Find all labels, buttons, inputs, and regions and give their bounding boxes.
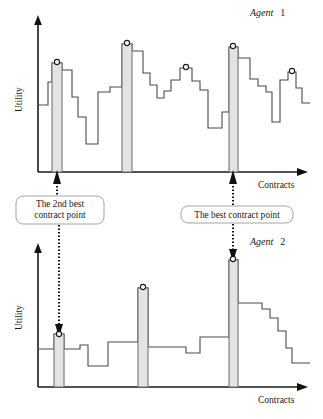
highlight-bar-agent2-best xyxy=(229,260,238,387)
agent-1-title-word: Agent xyxy=(249,7,274,18)
callout-second-best-line2: contract point xyxy=(34,210,86,220)
agent-1-title: Agent 1 xyxy=(249,2,285,19)
peak-marker-agent2-1 xyxy=(56,331,61,336)
peak-marker-agent1-5 xyxy=(289,68,294,73)
agent-2-title-word: Agent xyxy=(249,236,274,247)
highlight-bar-agent1-second-best xyxy=(52,63,62,172)
agent-2-title-number: 2 xyxy=(280,236,285,247)
callout-second-best-line1: The 2nd best xyxy=(36,199,84,209)
peak-marker-agent1-2 xyxy=(124,40,129,45)
highlight-bar-agent2-middle-peak xyxy=(138,288,148,387)
panel-agent-1: Utility Contracts Agent 1 xyxy=(14,2,310,190)
peak-marker-agent1-3 xyxy=(183,64,188,69)
peak-marker-agent2-2 xyxy=(140,284,145,289)
y-axis-label-agent-1: Utility xyxy=(14,87,24,112)
y-axis-agent-2 xyxy=(34,243,42,387)
y-axis-agent-1 xyxy=(34,15,42,172)
x-axis-agent-2 xyxy=(38,383,308,391)
figure-root: Utility Contracts Agent 1 The 2nd best c… xyxy=(0,0,323,419)
agent-2-title: Agent 2 xyxy=(249,231,285,248)
peak-marker-agent2-3 xyxy=(230,256,235,261)
peak-marker-agent1-1 xyxy=(54,59,59,64)
callout-best-line1: The best contract point xyxy=(194,210,280,220)
x-axis-label-agent-1: Contracts xyxy=(258,180,295,190)
x-axis-agent-1 xyxy=(38,168,308,176)
y-axis-label-agent-2: Utility xyxy=(14,305,24,330)
step-curve-agent-2 xyxy=(38,260,310,366)
highlight-bar-agent1-middle-peak xyxy=(122,44,132,172)
peak-marker-agent1-4 xyxy=(230,43,235,48)
callout-second-best[interactable]: The 2nd best contract point xyxy=(16,170,104,337)
highlight-bar-agent1-best xyxy=(229,47,238,172)
step-curve-agent-1 xyxy=(38,44,310,144)
two-agent-utility-step-chart: Utility Contracts Agent 1 The 2nd best c… xyxy=(0,0,323,419)
x-axis-label-agent-2: Contracts xyxy=(258,395,295,405)
agent-1-title-number: 1 xyxy=(280,7,285,18)
highlight-bar-agent2-second-best xyxy=(54,334,64,387)
